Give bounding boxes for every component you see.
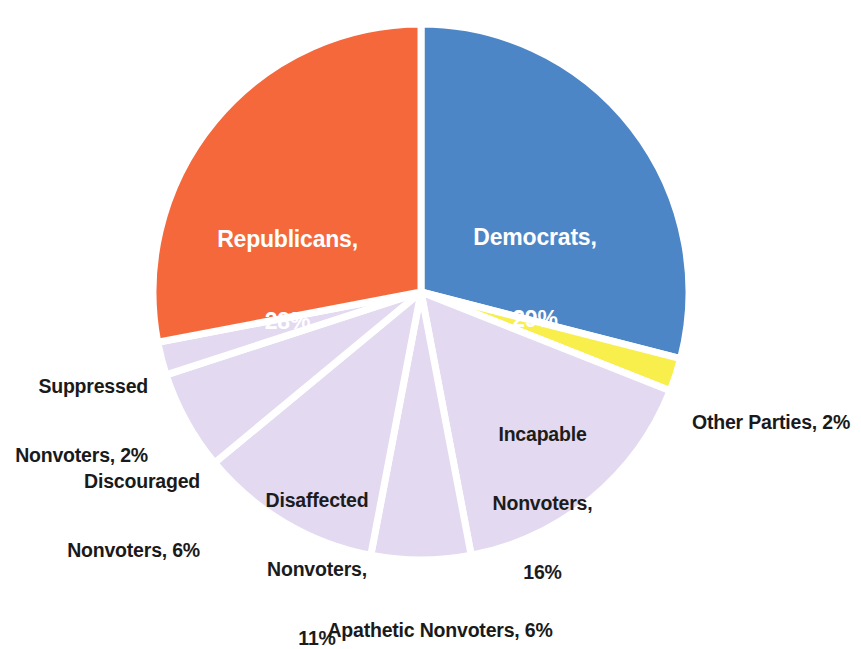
slice-label-discouraged-line2: Nonvoters, 6%: [20, 539, 200, 562]
slice-label-democrats-line2: 29%: [440, 306, 630, 333]
slice-label-incapable-line1: Incapable: [455, 423, 630, 446]
slice-label-other-parties-line1: Other Parties, 2%: [692, 411, 860, 434]
slice-label-democrats-line1: Democrats,: [440, 224, 630, 251]
slice-label-incapable-line2: Nonvoters,: [455, 492, 630, 515]
slice-label-disaffected-nonvoters: Disaffected Nonvoters, 11%: [232, 443, 402, 649]
slice-label-republicans-line1: Republicans,: [175, 226, 400, 253]
slice-label-republicans-line2: 28%: [175, 308, 400, 335]
slice-label-disaffected-line1: Disaffected: [232, 489, 402, 512]
slice-label-disaffected-line3: 11%: [232, 627, 402, 649]
slice-label-disaffected-line2: Nonvoters,: [232, 558, 402, 581]
slice-label-suppressed-line1: Suppressed: [8, 375, 148, 398]
slice-label-republicans: Republicans, 28%: [175, 172, 400, 389]
slice-label-suppressed-line2: Nonvoters, 2%: [8, 444, 148, 467]
slice-label-other-parties: Other Parties, 2%: [692, 365, 860, 480]
slice-label-suppressed-nonvoters: Suppressed Nonvoters, 2%: [8, 329, 148, 513]
slice-label-democrats: Democrats, 29%: [440, 170, 630, 387]
